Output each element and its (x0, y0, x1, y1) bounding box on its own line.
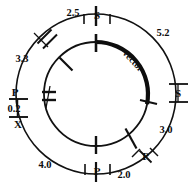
distance-label-2-5: 2.5 (66, 7, 79, 18)
site-label-s-top: S (94, 9, 100, 21)
site-label-s-right: S (175, 87, 181, 99)
distance-label-3-0: 3.0 (159, 124, 172, 135)
distance-label-5-2: 5.2 (156, 27, 169, 38)
site-label-p-left: P (12, 86, 19, 98)
vector-arc (96, 42, 148, 104)
distance-label-2-0: 2.0 (117, 169, 130, 180)
circular-restriction-map: 2.5 5.2 3.0 2.0 4.0 0.2 3.3 S S P P X P … (0, 0, 192, 189)
distance-label-3-3: 3.3 (15, 53, 28, 64)
site-label-p-bottom: P (94, 165, 101, 177)
inner-tick-upper-left (60, 58, 73, 71)
site-label-p-bottom-right: P (142, 150, 149, 162)
map-canvas: 2.5 5.2 3.0 2.0 4.0 0.2 3.3 S S P P X P … (0, 0, 192, 189)
distance-label-0-2: 0.2 (7, 103, 20, 114)
distance-label-4-0: 4.0 (38, 159, 51, 170)
site-label-x-left: X (14, 118, 22, 130)
